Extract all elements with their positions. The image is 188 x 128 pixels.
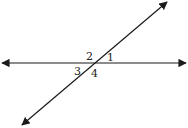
angle-label-4: 4 [91,67,98,80]
angle-label-3: 3 [74,65,81,78]
angle-label-2: 2 [86,50,93,63]
angle-diagram: 1 2 3 4 [0,0,188,128]
angle-label-1: 1 [107,51,114,64]
